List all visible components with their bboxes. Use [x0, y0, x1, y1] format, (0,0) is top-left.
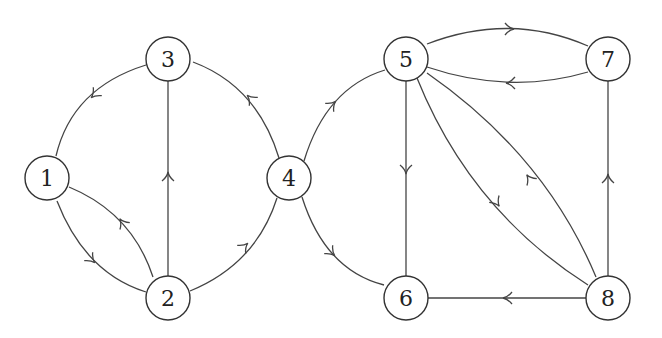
edge-line — [304, 70, 385, 161]
arrowhead-icon — [237, 239, 252, 254]
node-label: 3 — [161, 47, 175, 72]
arrowhead-icon — [84, 252, 99, 267]
edge-1-to-2 — [57, 201, 146, 292]
node-label: 1 — [40, 166, 54, 191]
node-label: 4 — [282, 166, 296, 191]
node-label: 5 — [399, 47, 413, 72]
node-1: 1 — [25, 156, 69, 200]
edge-5-to-8 — [417, 78, 588, 285]
edge-2-to-4 — [190, 198, 277, 291]
node-8: 8 — [586, 276, 630, 320]
edge-4-to-3 — [193, 62, 279, 158]
edge-line — [193, 62, 279, 158]
edge-line — [427, 28, 588, 46]
edge-7-to-5 — [427, 67, 588, 89]
arrowhead-icon — [87, 87, 102, 102]
edge-line — [427, 73, 596, 277]
graph-svg: 12345678 — [0, 0, 662, 338]
edge-8-to-6 — [428, 292, 586, 304]
node-label: 2 — [161, 286, 175, 311]
edge-5-to-7 — [427, 23, 588, 46]
node-label: 8 — [601, 286, 615, 311]
edge-8-to-7 — [602, 81, 614, 276]
edge-8-to-5 — [427, 73, 596, 277]
node-2: 2 — [146, 276, 190, 320]
edge-line — [190, 198, 277, 291]
node-6: 6 — [384, 276, 428, 320]
edge-line — [56, 65, 146, 156]
edge-3-to-1 — [56, 65, 146, 156]
node-4: 4 — [267, 156, 311, 200]
edge-line — [427, 67, 588, 82]
node-7: 7 — [586, 37, 630, 81]
node-label: 7 — [601, 47, 615, 72]
edge-line — [417, 78, 588, 285]
node-3: 3 — [146, 37, 190, 81]
edge-4-to-5 — [304, 70, 385, 161]
edge-4-to-6 — [302, 197, 384, 285]
edge-2-to-1 — [69, 187, 153, 277]
graph-diagram: 12345678 — [0, 0, 662, 338]
arrowhead-icon — [243, 91, 258, 106]
edges-layer — [56, 23, 614, 304]
edge-line — [69, 187, 153, 277]
edge-line — [302, 197, 384, 285]
node-label: 6 — [399, 286, 413, 311]
edge-line — [57, 201, 146, 292]
edge-2-to-3 — [162, 81, 174, 276]
node-5: 5 — [384, 37, 428, 81]
edge-5-to-6 — [400, 81, 412, 276]
